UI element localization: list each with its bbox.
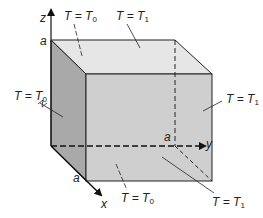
label-bottom: T = T0 xyxy=(121,192,154,206)
label-top-back: T = T0 xyxy=(64,10,97,24)
y-axis-label: y xyxy=(206,138,212,150)
x-axis-label: x xyxy=(101,198,107,210)
label-top: T = T1 xyxy=(116,10,149,24)
label-front-bottom-right: T = T1 xyxy=(212,196,245,210)
cube-diagram xyxy=(0,0,263,218)
y-length-label: a xyxy=(164,131,171,143)
front-face xyxy=(86,74,212,181)
label-right: T = T1 xyxy=(226,93,259,107)
z-axis-label: z xyxy=(40,12,46,24)
x-length-label: a xyxy=(73,172,80,184)
z-length-label: a xyxy=(40,35,47,47)
label-left: T = T0 xyxy=(14,90,47,104)
